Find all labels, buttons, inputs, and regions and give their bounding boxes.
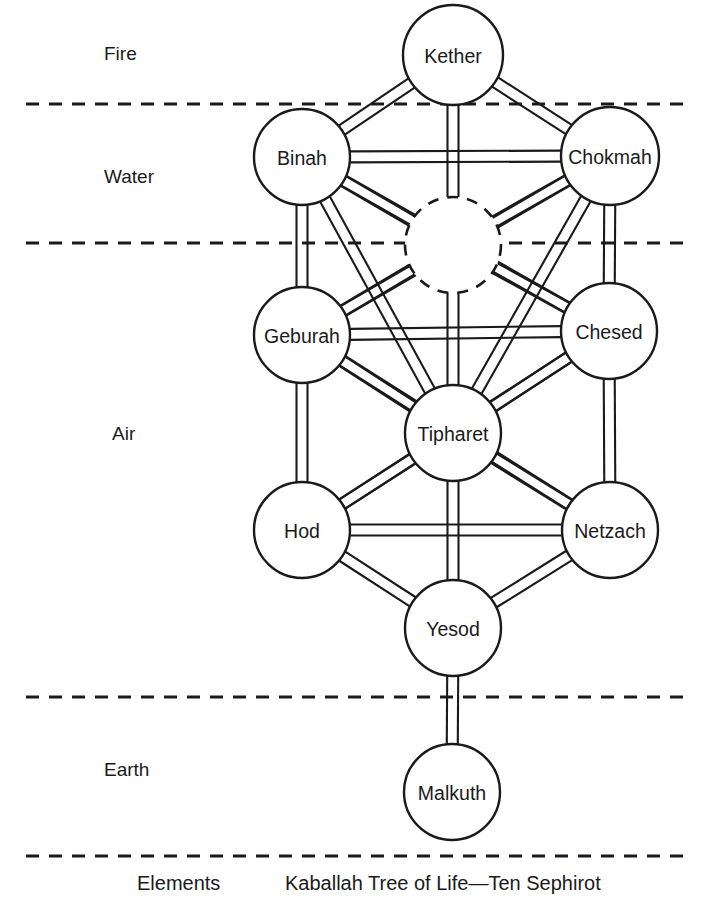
path-stroke xyxy=(345,88,415,135)
sephira-label-hod: Hod xyxy=(284,520,320,542)
path-tipharet-hod xyxy=(339,454,415,508)
sephira-hod[interactable]: Hod xyxy=(254,482,350,578)
path-tipharet-yesod xyxy=(448,481,459,580)
path-netzach-yesod xyxy=(491,551,572,607)
path-stroke xyxy=(350,337,561,340)
element-label-earth: Earth xyxy=(104,759,149,781)
path-stroke xyxy=(339,561,409,607)
sephira-tipharet[interactable]: Tipharet xyxy=(405,385,501,481)
path-geburah-chesed xyxy=(350,326,561,340)
path-geburah-hod xyxy=(297,383,308,482)
path-kether-binah xyxy=(339,78,415,134)
elements-axis-label: Elements xyxy=(137,872,220,895)
path-tipharet-netzach xyxy=(491,454,572,510)
element-label-fire: Fire xyxy=(104,43,137,65)
path-stroke xyxy=(345,464,415,509)
path-binah-chokmah xyxy=(350,151,561,163)
path-stroke xyxy=(339,454,409,499)
sephira-yesod[interactable]: Yesod xyxy=(405,580,501,676)
element-label-water: Water xyxy=(104,166,154,188)
element-label-air: Air xyxy=(112,423,135,445)
sephira-label-chokmah: Chokmah xyxy=(568,146,651,168)
path-yesod-malkuth xyxy=(447,676,458,744)
path-stroke xyxy=(339,78,409,125)
path-stroke xyxy=(497,454,572,501)
path-chesed-tipharet xyxy=(490,353,572,412)
sephira-label-malkuth: Malkuth xyxy=(418,782,486,804)
sephira-binah[interactable]: Binah xyxy=(254,109,350,205)
path-stroke xyxy=(350,151,561,152)
sephira-netzach[interactable]: Netzach xyxy=(562,482,658,578)
sephira-chesed[interactable]: Chesed xyxy=(561,283,657,379)
path-chokmah-daath xyxy=(492,175,570,226)
path-stroke xyxy=(497,560,573,607)
path-hod-yesod xyxy=(339,552,415,607)
sephira-chokmah[interactable]: Chokmah xyxy=(561,107,659,205)
path-stroke xyxy=(491,463,566,510)
path-stroke xyxy=(345,552,415,598)
sephira-label-netzach: Netzach xyxy=(574,520,646,542)
sephira-malkuth[interactable]: Malkuth xyxy=(404,744,500,840)
path-stroke xyxy=(491,551,567,598)
path-binah-daath xyxy=(341,176,415,225)
sephira-geburah[interactable]: Geburah xyxy=(254,287,350,383)
tree-of-life-figure: KetherBinahChokmahGeburahChesedTipharetH… xyxy=(0,0,703,918)
path-stroke xyxy=(350,162,561,163)
sephira-kether[interactable]: Kether xyxy=(403,5,503,105)
path-stroke xyxy=(615,379,616,482)
sephira-daath-hidden xyxy=(405,197,501,293)
path-stroke xyxy=(604,379,605,482)
path-hod-netzach xyxy=(350,525,562,536)
sephira-label-geburah: Geburah xyxy=(264,325,340,347)
path-stroke xyxy=(350,326,561,329)
path-binah-geburah xyxy=(297,205,308,287)
sephira-label-kether: Kether xyxy=(424,45,482,67)
path-geburah-tipharet xyxy=(339,357,415,412)
path-stroke xyxy=(346,274,415,315)
sephira-label-yesod: Yesod xyxy=(426,618,480,640)
sephira-label-tipharet: Tipharet xyxy=(418,423,489,445)
sephira-label-binah: Binah xyxy=(277,147,327,169)
sephirot-layer: KetherBinahChokmahGeburahChesedTipharetH… xyxy=(254,5,659,840)
element-dividers-layer xyxy=(26,104,692,856)
figure-caption: Kaballah Tree of Life—Ten Sephirot xyxy=(285,872,601,895)
path-chesed-netzach xyxy=(604,379,616,482)
path-stroke xyxy=(492,87,566,134)
path-kether-chokmah xyxy=(492,77,572,134)
path-stroke xyxy=(498,77,572,124)
sephira-label-chesed: Chesed xyxy=(575,321,642,343)
path-stroke xyxy=(498,263,570,303)
